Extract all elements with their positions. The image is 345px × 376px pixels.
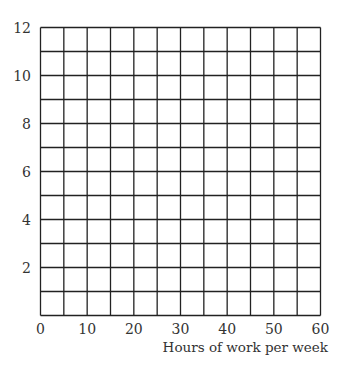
x-tick-label: 20: [125, 321, 143, 337]
y-axis-tick-labels: 24681012: [13, 20, 31, 276]
y-tick-label: 10: [13, 68, 31, 84]
y-tick-label: 2: [22, 260, 31, 276]
y-tick-label: 6: [22, 164, 31, 180]
x-tick-label: 30: [172, 321, 190, 337]
grid-lines: [41, 28, 321, 316]
x-axis-label: Hours of work per week: [163, 339, 329, 355]
x-tick-label: 50: [265, 321, 283, 337]
x-tick-label: 10: [78, 321, 96, 337]
y-tick-label: 4: [22, 212, 31, 228]
x-tick-label: 60: [312, 321, 330, 337]
x-tick-label: 0: [36, 321, 45, 337]
y-tick-label: 8: [22, 116, 31, 132]
x-tick-label: 40: [218, 321, 236, 337]
blank-grid-chart: 24681012 0102030405060 Hours of work per…: [0, 0, 345, 376]
x-axis-tick-labels: 0102030405060: [36, 321, 329, 337]
y-tick-label: 12: [13, 20, 31, 36]
